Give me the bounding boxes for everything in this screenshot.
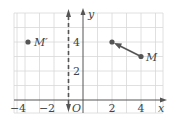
point-M: [138, 54, 143, 59]
point-M-prime: [25, 39, 30, 44]
label-M: M: [145, 51, 158, 64]
grid: [14, 13, 163, 113]
axes: [14, 8, 167, 113]
y-axis-label: y: [87, 8, 95, 21]
y-axis-arrow-icon: [81, 8, 86, 15]
point-image: [109, 39, 114, 44]
origin-label: O: [72, 102, 81, 115]
x-tick-label: −4: [10, 102, 26, 115]
label-M-prime: M′: [33, 36, 48, 49]
dashed-line: [66, 9, 71, 112]
y-tick-label: 4: [73, 36, 80, 49]
x-axis-label: x: [158, 102, 165, 115]
x-tick-label: −2: [39, 102, 55, 115]
translation-arrow: [114, 43, 141, 57]
y-tick-label: 2: [73, 65, 80, 78]
x-tick-label: 4: [138, 102, 145, 115]
x-tick-label: 2: [109, 102, 116, 115]
arrow-down-icon: [66, 104, 71, 112]
arrowhead-icon: [114, 43, 122, 49]
coordinate-plane: M M′ y x O −4 −2 2 4 2 4: [0, 0, 175, 122]
